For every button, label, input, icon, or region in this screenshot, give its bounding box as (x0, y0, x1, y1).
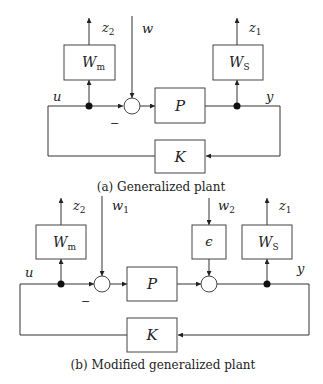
y-label: y (265, 89, 274, 104)
k-label: K (145, 326, 158, 344)
summing-junction-1 (94, 276, 110, 292)
feedback-return-line (178, 284, 309, 335)
feedback-loop-line (20, 284, 127, 335)
w-label: w (142, 21, 153, 36)
p-label: P (146, 275, 158, 293)
y-label: y (296, 261, 305, 276)
z1-label: z1 (248, 20, 262, 37)
block-diagram-figure: Wm WS P K z2 w z1 u y − (a) Generalized … (0, 0, 323, 384)
w1-label: w1 (112, 198, 129, 215)
branch-point-u (58, 281, 65, 288)
feedback-return-line (206, 106, 280, 156)
u-label: u (53, 89, 61, 104)
caption-a: (a) Generalized plant (97, 180, 226, 194)
z2-label: z2 (72, 198, 86, 215)
caption-b: (b) Modified generalized plant (71, 358, 256, 372)
branch-point-u (86, 103, 93, 110)
p-label: P (174, 97, 186, 115)
u-label: u (25, 265, 33, 280)
minus-sign: − (81, 295, 90, 308)
w2-label: w2 (218, 198, 235, 215)
branch-point-y (234, 103, 241, 110)
epsilon-label: ϵ (205, 234, 213, 249)
branch-point-y (264, 281, 271, 288)
summing-junction-2 (201, 276, 217, 292)
summing-junction (124, 98, 140, 114)
diagram-modified-generalized-plant: Wm ϵ WS P K z2 w1 w2 z1 u y − (b) Modifi… (20, 196, 309, 372)
feedback-loop-line (48, 106, 155, 156)
z1-label: z1 (278, 198, 292, 215)
diagram-generalized-plant: Wm WS P K z2 w z1 u y − (a) Generalized … (48, 16, 280, 194)
z2-label: z2 (101, 20, 115, 37)
minus-sign: − (110, 117, 119, 130)
k-label: K (173, 148, 186, 166)
